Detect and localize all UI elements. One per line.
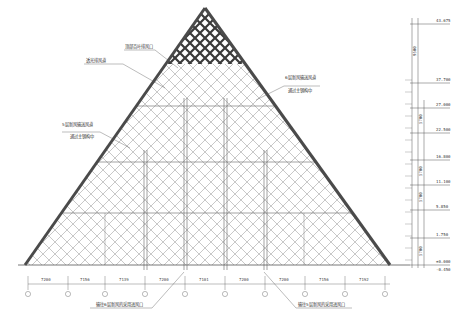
elevation-label: ±0.000 xyxy=(436,259,451,264)
annotation-bottom-right-inlet: 输往5层新风的采用进风口 xyxy=(298,301,345,308)
dimension-label: 7156 xyxy=(319,277,329,282)
annotation-left-duct-line1: 5层新风输送风道 xyxy=(62,121,94,128)
axis-marker-circle xyxy=(102,291,107,296)
axis-marker-circle xyxy=(65,291,70,296)
elevation-label: -0.450 xyxy=(436,267,451,272)
vertical-dimension-labels: 9500 5700 5700 5700 5700 xyxy=(412,46,423,256)
dimension-label: 7200 xyxy=(239,277,249,282)
elevation-label: 5.850 xyxy=(436,204,449,209)
axis-marker-circle xyxy=(222,291,227,296)
elevation-labels: 43.675 37.700 27.000 22.500 16.800 11.10… xyxy=(436,18,451,272)
bottom-dimension-labels: 7200 7156 7139 7200 7101 7200 7200 7156 … xyxy=(41,277,369,282)
axis-marker-circle xyxy=(182,291,187,296)
vertical-dimension-label: 5700 xyxy=(418,166,423,176)
dimension-label: 7192 xyxy=(359,277,369,282)
dimension-label: 7200 xyxy=(159,277,169,282)
annotation-left-duct-line2: 通过主钢构中 xyxy=(70,133,94,140)
vertical-dimension-label: 9500 xyxy=(412,46,417,56)
annotation-top-louver: 顶部百叶排风口 xyxy=(125,43,153,50)
elevation-label: 22.500 xyxy=(436,127,451,132)
pyramid-elevation-drawing: 顶部百叶排风口 透光排风道 6层新风输送风道 通过主钢构中 5层新风输送风道 通… xyxy=(0,0,468,331)
axis-markers xyxy=(25,291,387,296)
axis-marker-circle xyxy=(302,291,307,296)
elevation-label: 16.800 xyxy=(436,154,451,159)
elevation-label: 1.750 xyxy=(436,232,449,237)
annotation-right-duct-line1: 6层新风输送风道 xyxy=(285,74,317,81)
annotation-right-duct-line2: 通过主钢构中 xyxy=(288,87,312,94)
vertical-dimension-label: 5700 xyxy=(418,246,423,256)
top-louver-grid xyxy=(160,5,250,67)
elevation-label: 43.675 xyxy=(436,18,451,23)
axis-marker-circle xyxy=(262,291,267,296)
vertical-dimension-label: 5700 xyxy=(418,192,423,202)
elevation-label: 27.000 xyxy=(436,102,451,107)
dimension-label: 7200 xyxy=(279,277,289,282)
elevation-label: 37.700 xyxy=(436,77,451,82)
axis-marker-circle xyxy=(25,291,30,296)
vertical-dimension-label: 5700 xyxy=(418,114,423,124)
dimension-label: 7139 xyxy=(119,277,129,282)
dimension-label: 7101 xyxy=(199,277,209,282)
dimension-label: 7156 xyxy=(80,277,90,282)
axis-marker-circle xyxy=(382,291,387,296)
axis-marker-circle xyxy=(142,291,147,296)
axis-marker-circle xyxy=(342,291,347,296)
dimension-label: 7200 xyxy=(41,277,51,282)
annotation-apex-vent: 透光排风道 xyxy=(86,57,107,64)
elevation-label: 11.100 xyxy=(436,179,451,184)
annotation-bottom-left-inlet: 输往6层新风的采用进风口 xyxy=(96,301,143,308)
